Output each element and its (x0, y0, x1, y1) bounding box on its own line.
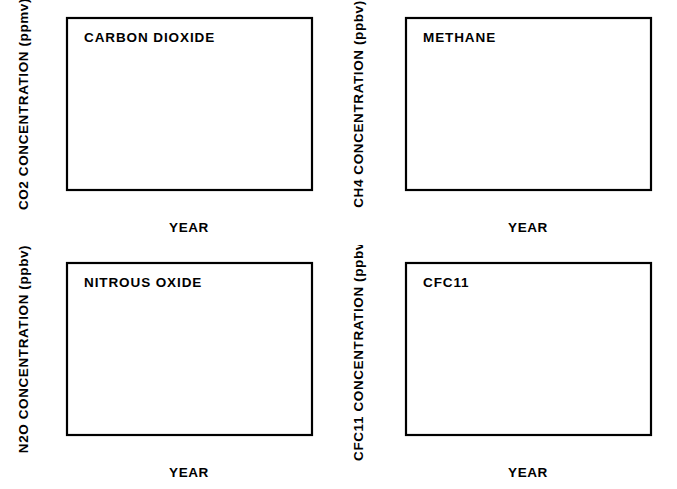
x-axis-title: YEAR (169, 465, 209, 480)
x-axis-title: YEAR (508, 465, 548, 480)
panel-title: CFC11 (423, 275, 470, 290)
y-axis-title: CO2 CONCENTRATION (ppmv) (16, 0, 31, 210)
y-axis-title: N2O CONCENTRATION (ppbv) (16, 245, 31, 453)
panel-title: NITROUS OXIDE (84, 275, 202, 290)
greenhouse-gas-figure: CARBON DIOXIDE YEAR CO2 CONCENTRATION (p… (0, 0, 677, 489)
cfc11-plot: CFC11 YEAR CFC11 CONCENTRATION (ppbv) (339, 245, 677, 489)
chart-panel-nitrous-oxide: NITROUS OXIDE YEAR N2O CONCENTRATION (pp… (0, 245, 338, 489)
carbon-dioxide-plot: CARBON DIOXIDE YEAR CO2 CONCENTRATION (p… (0, 0, 338, 244)
y-axis-title: CFC11 CONCENTRATION (ppbv) (351, 245, 366, 461)
methane-plot: METHANE YEAR CH4 CONCENTRATION (ppbv) (339, 0, 677, 244)
chart-panel-cfc11: CFC11 YEAR CFC11 CONCENTRATION (ppbv) (339, 245, 677, 489)
x-axis-title: YEAR (169, 220, 209, 235)
panel-title: CARBON DIOXIDE (84, 30, 215, 45)
x-axis-title: YEAR (508, 220, 548, 235)
chart-panel-carbon-dioxide: CARBON DIOXIDE YEAR CO2 CONCENTRATION (p… (0, 0, 338, 244)
chart-panel-methane: METHANE YEAR CH4 CONCENTRATION (ppbv) (339, 0, 677, 244)
y-axis-title: CH4 CONCENTRATION (ppbv) (351, 0, 366, 208)
nitrous-oxide-plot: NITROUS OXIDE YEAR N2O CONCENTRATION (pp… (0, 245, 338, 489)
panel-title: METHANE (423, 30, 496, 45)
